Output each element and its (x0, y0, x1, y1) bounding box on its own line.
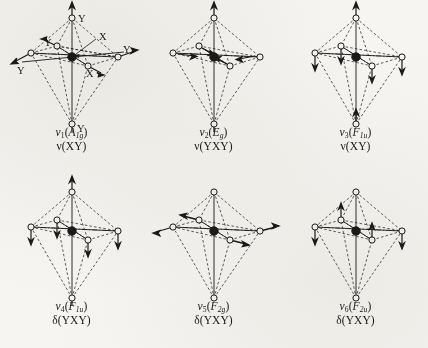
octahedron-diagram-nu6 (284, 174, 427, 306)
caption-nu6: ν6(F2u) δ(YXY) (284, 300, 427, 327)
mode-cell-nu5: ν5(F2g) δ(YXY) (142, 174, 285, 348)
octahedron-diagram-nu5 (142, 174, 285, 306)
mode-cell-nu6: ν6(F2u) δ(YXY) (284, 174, 427, 348)
mode-cell-nu3: ν3(F1u) ν(XY) (284, 0, 427, 174)
caption-nu1: ν1(A1g) ν(XY) (0, 126, 143, 153)
caption-nu5: ν5(F2g) δ(YXY) (142, 300, 285, 327)
caption-line-coordinate-nu3: ν(XY) (284, 140, 427, 153)
ligand-atoms-nu3 (312, 15, 405, 127)
central-atom-nu2 (210, 53, 218, 61)
atom-label-y-back-nu1: Y (44, 37, 52, 48)
ligand-atoms-nu2 (170, 15, 263, 127)
octahedron-diagram-nu2 (142, 0, 285, 132)
central-atom-nu3 (352, 53, 360, 61)
mode-cell-nu1: X Y Y Y Y Y X ν1(A1g) ν(XY) (0, 0, 143, 174)
caption-nu2: ν2(Eg) ν(YXY) (142, 126, 285, 153)
caption-line-symmetry-nu1: ν1(A1g) (0, 126, 143, 140)
ligand-atoms-nu6 (312, 189, 405, 301)
caption-nu3: ν3(F1u) ν(XY) (284, 126, 427, 153)
caption-line-symmetry-nu3: ν3(F1u) (284, 126, 427, 140)
caption-line-coordinate-nu2: ν(YXY) (142, 140, 285, 153)
atom-label-x-front-nu1: X (86, 68, 94, 79)
caption-line-symmetry-nu4: ν4(F1u) (0, 300, 143, 314)
central-atom-nu6 (352, 227, 360, 235)
atom-label-y-right-nu1: Y (123, 44, 131, 55)
caption-line-symmetry-nu2: ν2(Eg) (142, 126, 285, 140)
caption-line-coordinate-nu6: δ(YXY) (284, 314, 427, 327)
caption-line-coordinate-nu1: ν(XY) (0, 140, 143, 153)
figure-root: X Y Y Y Y Y X ν1(A1g) ν(XY) (0, 0, 428, 348)
octahedron-diagram-nu1: X Y Y Y Y Y X (0, 0, 143, 132)
mode-cell-nu2: ν2(Eg) ν(YXY) (142, 0, 285, 174)
central-atom-nu4 (68, 227, 76, 235)
caption-line-symmetry-nu5: ν5(F2g) (142, 300, 285, 314)
atom-label-y-left-nu1: Y (17, 65, 25, 76)
ligand-atoms-nu4 (28, 189, 121, 301)
ligand-atoms-nu1 (28, 15, 121, 127)
atom-label-x-nu1: X (99, 31, 107, 42)
caption-nu4: ν4(F1u) δ(YXY) (0, 300, 143, 327)
caption-line-coordinate-nu4: δ(YXY) (0, 314, 143, 327)
caption-line-coordinate-nu5: δ(YXY) (142, 314, 285, 327)
central-atom-nu1 (68, 53, 76, 61)
octahedron-diagram-nu3 (284, 0, 427, 132)
caption-line-symmetry-nu6: ν6(F2u) (284, 300, 427, 314)
central-atom-nu5 (210, 227, 218, 235)
atom-label-y-top-nu1: Y (78, 13, 86, 24)
octahedron-diagram-nu4 (0, 174, 143, 306)
mode-cell-nu4: ν4(F1u) δ(YXY) (0, 174, 143, 348)
